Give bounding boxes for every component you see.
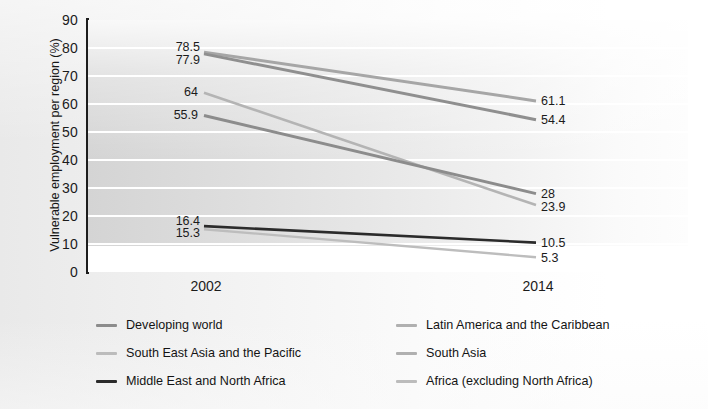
y-tick-20: 20: [62, 208, 78, 224]
legend-item-latin-america-caribbean[interactable]: Latin America and the Caribbean: [396, 318, 609, 332]
legend-swatch-south-asia: [396, 352, 417, 355]
legend-label-south-asia: South Asia: [426, 346, 486, 360]
value-label-2014-54-4: 54.4: [541, 113, 565, 127]
value-label-2002-77-9: 77.9: [176, 53, 200, 67]
legend-swatch-middle-east-north-africa: [96, 380, 117, 383]
y-tick-10: 10: [62, 236, 78, 252]
y-tick-40: 40: [62, 152, 78, 168]
legend-item-middle-east-north-africa[interactable]: Middle East and North Africa: [96, 374, 286, 388]
series-line-africa-excl-north-africa: [204, 52, 536, 101]
value-label-2014-61-1: 61.1: [541, 94, 565, 108]
legend-label-africa-excl-north-africa: Africa (excluding North Africa): [426, 374, 593, 388]
value-label-2014-28: 28: [541, 187, 555, 201]
x-tick-2002: 2002: [190, 278, 221, 294]
chart-figure: Vulnerable employment per region (%) 90 …: [0, 0, 708, 409]
legend-item-developing-world[interactable]: Developing world: [96, 318, 223, 332]
y-tick-30: 30: [62, 180, 78, 196]
series-line-developing-world: [204, 116, 536, 194]
y-tick-0: 0: [70, 264, 78, 280]
legend-label-latin-america-caribbean: Latin America and the Caribbean: [426, 318, 609, 332]
value-label-2002-15-3: 15.3: [176, 226, 200, 240]
value-label-2002-55-9: 55.9: [174, 108, 198, 122]
legend-swatch-south-east-asia-pacific: [96, 352, 117, 355]
legend-swatch-latin-america-caribbean: [396, 324, 417, 327]
value-label-2002-64: 64: [184, 85, 198, 99]
legend-item-south-east-asia-pacific[interactable]: South East Asia and the Pacific: [96, 346, 301, 360]
plot-area: 78.5 77.9 64 55.9 16.4 15.3 61.1 54.4 28…: [88, 20, 688, 272]
y-tick-90: 90: [62, 12, 78, 28]
value-label-2002-78-5: 78.5: [176, 40, 200, 54]
legend-swatch-developing-world: [96, 324, 117, 327]
legend-label-middle-east-north-africa: Middle East and North Africa: [126, 374, 286, 388]
chart-legend: Developing world Latin America and the C…: [96, 318, 696, 396]
value-label-2014-10-5: 10.5: [541, 236, 565, 250]
legend-swatch-africa-excl-north-africa: [396, 380, 417, 383]
y-tick-80: 80: [62, 40, 78, 56]
legend-item-south-asia[interactable]: South Asia: [396, 346, 486, 360]
y-tick-60: 60: [62, 96, 78, 112]
legend-item-africa-excl-north-africa[interactable]: Africa (excluding North Africa): [396, 374, 593, 388]
value-label-2014-23-9: 23.9: [541, 200, 565, 214]
legend-label-south-east-asia-pacific: South East Asia and the Pacific: [126, 346, 301, 360]
y-axis-ticks: 90 80 70 60 50 40 30 20 10 0: [0, 20, 78, 272]
y-tick-50: 50: [62, 124, 78, 140]
legend-label-developing-world: Developing world: [126, 318, 223, 332]
x-tick-2014: 2014: [522, 278, 553, 294]
y-tick-70: 70: [62, 68, 78, 84]
value-label-2014-5-3: 5.3: [541, 251, 558, 265]
